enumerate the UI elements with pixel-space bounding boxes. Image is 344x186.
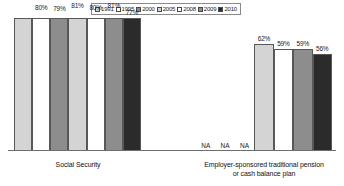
bar[interactable] [313, 54, 332, 151]
category-label-employer-pension: Employer-sponsored traditional pensionor… [186, 160, 342, 178]
bar-group-bars: 88%80%79%81%80%81%77% [14, 18, 141, 151]
bar-slot: 80% [32, 18, 50, 151]
bar-slot: 62% [254, 18, 273, 151]
legend-entry: 2005 [157, 6, 176, 13]
legend-entry: 2008 [177, 6, 196, 13]
bar-slot: 80% [87, 18, 105, 151]
legend-label: 2005 [163, 6, 176, 13]
bar[interactable] [50, 18, 68, 151]
legend-swatch-icon [157, 7, 162, 12]
bar-value-label: 59% [293, 40, 312, 48]
bar[interactable] [123, 18, 141, 151]
legend-label: 2010 [224, 6, 237, 13]
category-label-line: or cash balance plan [186, 169, 342, 178]
legend-label: 2009 [204, 6, 217, 13]
category-label-social-security: Social Security [4, 160, 152, 169]
legend-swatch-icon [198, 7, 203, 12]
bar-slot: NA [235, 18, 254, 151]
bar-na-label: NA [235, 142, 254, 150]
bar-chart: 1991199520002005200820092010 88%80%79%81… [0, 0, 344, 186]
bar-slot: 81% [105, 18, 123, 151]
bar-na-label: NA [196, 142, 215, 150]
bar-slot: 79% [50, 18, 68, 151]
bar[interactable] [254, 44, 273, 151]
bar-group-bars: NANANA62%59%59%56% [196, 18, 332, 151]
bar-slot: 81% [68, 18, 86, 151]
legend-label: 2000 [142, 6, 155, 13]
bar-value-label: 81% [105, 2, 123, 10]
bar[interactable] [32, 18, 50, 151]
bar-value-label: 59% [274, 40, 293, 48]
bar-value-label: 80% [87, 4, 105, 12]
bar-value-label: 56% [313, 45, 332, 53]
legend-entry: 2009 [198, 6, 217, 13]
bar-slot: 59% [274, 18, 293, 151]
bar[interactable] [293, 49, 312, 151]
bar-value-label: 79% [50, 5, 68, 13]
bar-slot: 88% [14, 18, 32, 151]
bar-value-label: 80% [32, 4, 50, 12]
x-axis-line [8, 150, 336, 151]
bar[interactable] [87, 18, 105, 151]
bar-group-employer-pension: NANANA62%59%59%56% [196, 18, 332, 151]
bar-group-social-security: 88%80%79%81%80%81%77% [14, 18, 141, 151]
legend-swatch-icon [218, 7, 223, 12]
bar-slot: 59% [293, 18, 312, 151]
bar[interactable] [105, 18, 123, 151]
bar-value-label: 81% [68, 2, 86, 10]
bar-value-label: 62% [254, 35, 273, 43]
category-label-line: Social Security [4, 160, 152, 169]
category-label-line: Employer-sponsored traditional pension [186, 160, 342, 169]
bar-na-label: NA [215, 142, 234, 150]
bar-slot: 56% [313, 18, 332, 151]
bar-slot: NA [215, 18, 234, 151]
bar-slot: 77% [123, 18, 141, 151]
legend-label: 2008 [183, 6, 196, 13]
bar[interactable] [68, 18, 86, 151]
plot-area: 88%80%79%81%80%81%77% NANANA62%59%59%56% [0, 18, 344, 151]
legend-entry: 2010 [218, 6, 237, 13]
bar[interactable] [274, 49, 293, 151]
bar-slot: NA [196, 18, 215, 151]
bar-value-label: 77% [123, 9, 141, 17]
bar[interactable] [14, 18, 32, 151]
legend-swatch-icon [177, 7, 182, 12]
